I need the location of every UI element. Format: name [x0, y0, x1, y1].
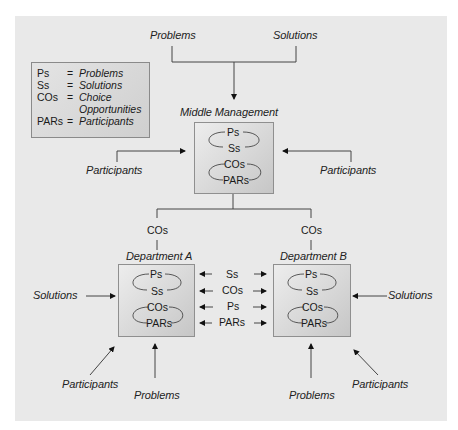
- cycle-cos: COs: [147, 301, 168, 313]
- cycle-pars: PARs: [146, 317, 172, 329]
- department-a-box: Ps Ss COs PARs: [118, 264, 195, 337]
- cycle-ps: Ps: [305, 268, 317, 280]
- cycle-cos: COs: [302, 301, 323, 313]
- middle-management-title: Middle Management: [180, 106, 278, 118]
- dept-a-problems-label: Problems: [134, 389, 180, 401]
- cycle-ss: Ss: [306, 285, 318, 297]
- dept-a-solutions-label: Solutions: [33, 289, 77, 301]
- legend-row: Ps=Problems: [37, 67, 141, 79]
- branch-right-cos-label: COs: [301, 224, 322, 236]
- problems-input-label: Problems: [150, 29, 196, 41]
- cycle-pars: PARs: [223, 174, 249, 186]
- cycle-ps: Ps: [227, 126, 239, 138]
- cycle-pars: PARs: [301, 317, 327, 329]
- department-b-box: Ps Ss COs PARs: [273, 264, 351, 337]
- department-a-title: Department A: [126, 250, 192, 262]
- cycle-cos: COs: [224, 158, 245, 170]
- legend: Ps=Problems Ss=Solutions COs=Choice Oppo…: [31, 62, 150, 138]
- legend-row: Opportunities: [37, 103, 141, 115]
- cycle-ss: Ss: [228, 142, 240, 154]
- legend-row: COs=Choice: [37, 91, 141, 103]
- legend-row: PARs=Participants: [37, 115, 141, 127]
- department-b-title: Department B: [280, 250, 347, 262]
- cycle-ps: Ps: [150, 268, 162, 280]
- legend-row: Ss=Solutions: [37, 79, 141, 91]
- exchange-ss: Ss: [226, 268, 238, 280]
- exchange-cos: COs: [222, 284, 243, 296]
- solutions-input-label: Solutions: [273, 29, 317, 41]
- branch-left-cos-label: COs: [147, 224, 168, 236]
- cycle-ss: Ss: [151, 285, 163, 297]
- dept-b-participants-label: Participants: [352, 378, 408, 390]
- dept-a-participants-label: Participants: [62, 378, 118, 390]
- mm-right-participants-label: Participants: [320, 164, 376, 176]
- exchange-pars: PARs: [219, 316, 245, 328]
- middle-management-box: Ps Ss COs PARs: [194, 122, 274, 194]
- mm-left-participants-label: Participants: [86, 164, 142, 176]
- dept-b-solutions-label: Solutions: [388, 289, 432, 301]
- exchange-ps: Ps: [227, 300, 239, 312]
- dept-b-problems-label: Problems: [289, 389, 335, 401]
